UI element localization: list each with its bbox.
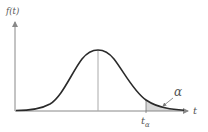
x-axis-label: t	[193, 105, 198, 116]
distribution-diagram: f(t) t tα α	[0, 0, 208, 132]
tail-area-label: α	[174, 85, 182, 99]
y-axis-label: f(t)	[5, 6, 19, 16]
bell-curve	[16, 50, 184, 111]
critical-value-subscript: α	[145, 121, 150, 129]
tail-pointer-arrow	[163, 98, 173, 106]
critical-value-label: tα	[141, 115, 150, 129]
